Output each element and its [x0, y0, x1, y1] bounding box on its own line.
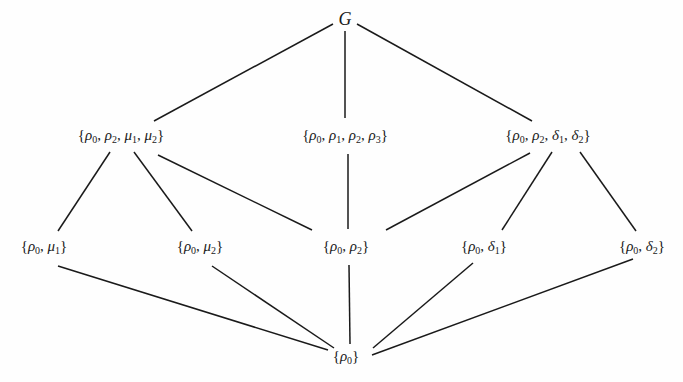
node-n4: {ρ0, μ1}	[21, 239, 68, 256]
node-n1: {ρ0, ρ2, μ1, μ2}	[78, 128, 164, 145]
edges-layer	[0, 0, 683, 382]
edge-n7-n9	[373, 263, 473, 348]
node-n8: {ρ0, δ2}	[619, 239, 665, 256]
node-n3: {ρ0, ρ2, δ1, δ2}	[505, 128, 590, 145]
edge-n4-n9	[58, 266, 328, 350]
node-n5: {ρ0, μ2}	[177, 239, 224, 256]
node-n9: {ρ0}	[333, 349, 360, 366]
edge-n1-n4	[58, 152, 110, 231]
edge-n1-n5	[134, 152, 192, 231]
subgroup-lattice-diagram: G{ρ0, ρ2, μ1, μ2}{ρ0, ρ1, ρ2, ρ3}{ρ0, ρ2…	[0, 0, 683, 382]
edge-n6-n9	[349, 265, 350, 344]
edge-n8-n9	[372, 259, 633, 355]
edge-G-n3	[357, 24, 532, 121]
node-n2: {ρ0, ρ1, ρ2, ρ3}	[302, 128, 388, 145]
edge-n3-n6	[386, 153, 530, 230]
edge-n3-n8	[580, 152, 636, 231]
node-n7: {ρ0, δ1}	[461, 239, 507, 256]
edge-n1-n6	[158, 155, 312, 230]
node-G: G	[339, 10, 352, 28]
node-n6: {ρ0, ρ2}	[323, 239, 369, 256]
edge-G-n1	[154, 24, 333, 121]
edge-n5-n9	[212, 266, 334, 348]
